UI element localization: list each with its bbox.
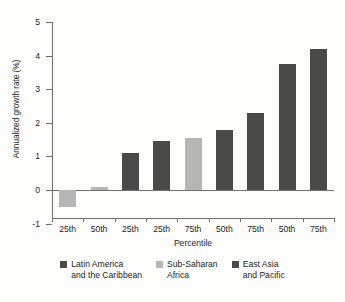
legend-item: Latin Americaand the Caribbean	[60, 259, 142, 281]
legend-swatch-icon	[156, 261, 163, 268]
bar	[185, 138, 202, 190]
bar	[279, 64, 296, 190]
bar	[247, 113, 264, 190]
bar	[153, 141, 170, 190]
bar	[216, 130, 233, 190]
x-axis-tick-label: 75th	[298, 224, 338, 234]
legend-swatch-icon	[60, 261, 67, 268]
plot-area: Annualized growth rate (%) 543210-1 25th…	[0, 0, 345, 245]
legend-item: Sub-SaharanAfrica	[156, 259, 218, 281]
legend-label: Sub-SaharanAfrica	[167, 259, 218, 281]
bar	[91, 187, 108, 190]
legend-item: East Asiaand Pacific	[232, 259, 285, 281]
bar	[59, 190, 76, 207]
legend-label: Latin Americaand the Caribbean	[71, 259, 142, 281]
bar	[122, 153, 139, 190]
x-axis-title: Percentile	[52, 238, 334, 248]
bar	[310, 49, 327, 190]
bar-group	[0, 0, 345, 245]
growth-rate-bar-chart: Annualized growth rate (%) 543210-1 25th…	[0, 0, 345, 302]
legend-swatch-icon	[232, 261, 239, 268]
chart-legend: Latin Americaand the CaribbeanSub-Sahara…	[0, 259, 345, 299]
legend-label: East Asiaand Pacific	[243, 259, 285, 281]
